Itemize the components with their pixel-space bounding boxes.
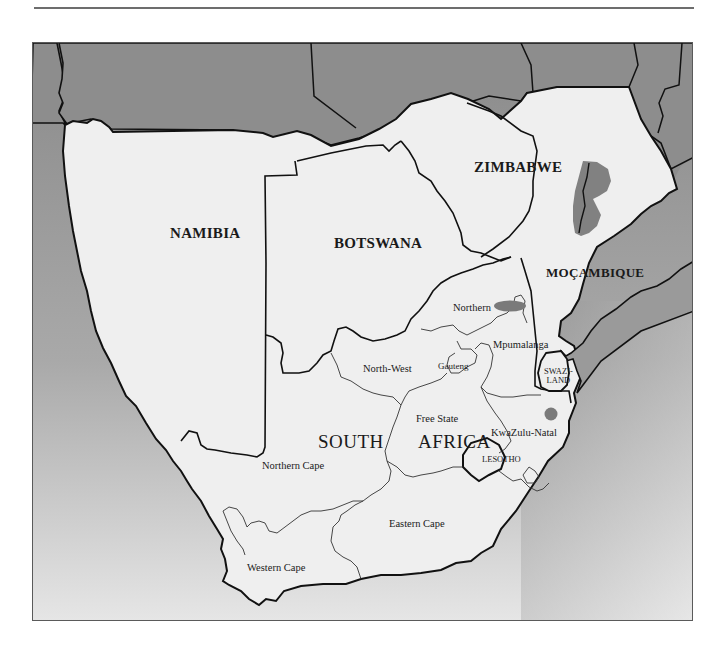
label-northern-cape: Northern Cape — [262, 460, 324, 471]
label-kwazulu-natal: KwaZulu-Natal — [491, 427, 557, 438]
distribution-kwazulu-natal — [545, 408, 558, 421]
map-frame — [32, 42, 693, 621]
map-canvas — [33, 43, 693, 621]
label-north-west: North-West — [363, 363, 412, 374]
label-africa: AFRICA — [418, 431, 491, 453]
distribution-northern-province — [494, 301, 526, 312]
label-south: SOUTH — [318, 431, 384, 453]
label-namibia: NAMIBIA — [170, 225, 240, 242]
label-northern: Northern — [453, 302, 491, 313]
label-mpumalanga: Mpumalanga — [493, 339, 548, 350]
header-rule — [34, 7, 694, 9]
label-free-state: Free State — [416, 413, 458, 424]
label-swaziland: SWAZI- LAND — [544, 367, 573, 385]
label-western-cape: Western Cape — [247, 562, 305, 573]
label-lesotho: LESOTHO — [482, 454, 521, 464]
label-botswana: BOTSWANA — [334, 235, 422, 252]
label-zimbabwe: ZIMBABWE — [474, 159, 562, 176]
label-eastern-cape: Eastern Cape — [389, 518, 445, 529]
label-mocambique: MOÇAMBIQUE — [546, 265, 644, 281]
label-gauteng: Gauteng — [438, 361, 469, 371]
